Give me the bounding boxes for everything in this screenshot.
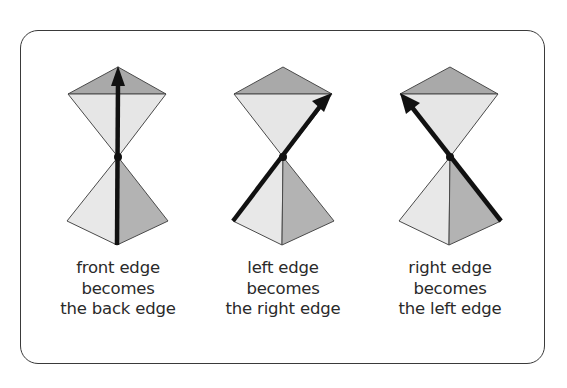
caption-line: the left edge: [370, 299, 530, 320]
caption-front-to-back: front edge becomes the back edge: [38, 258, 198, 320]
caption-line: becomes: [38, 279, 198, 300]
caption-line: becomes: [370, 279, 530, 300]
double-cone-right-to-left: [399, 67, 501, 245]
caption-line: the back edge: [38, 299, 198, 320]
double-cone-front-to-back: [67, 66, 168, 245]
caption-left-to-right: left edge becomes the right edge: [203, 258, 363, 320]
cone-diagrams: [0, 0, 567, 388]
caption-line: becomes: [203, 279, 363, 300]
caption-line: left edge: [203, 258, 363, 279]
double-cone-left-to-right: [233, 67, 334, 245]
caption-line: right edge: [370, 258, 530, 279]
caption-right-to-left: right edge becomes the left edge: [370, 258, 530, 320]
caption-line: front edge: [38, 258, 198, 279]
caption-line: the right edge: [203, 299, 363, 320]
